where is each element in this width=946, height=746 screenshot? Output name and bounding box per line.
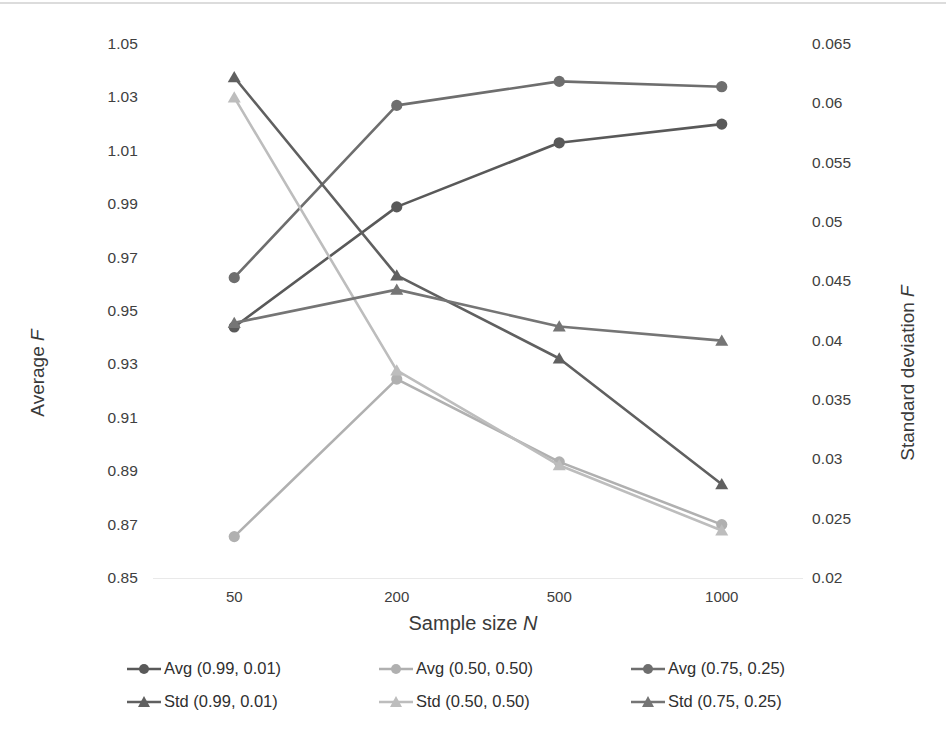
y-axis-left-tick-label: 0.89 [107,462,138,480]
y-axis-left-tick-label: 0.97 [107,249,138,267]
legend-item-avg_75_25[interactable]: Avg (0.75, 0.25) [630,659,882,678]
series-avg_75_25 [229,76,728,283]
x-axis-tick-label: 1000 [705,588,738,605]
y-axis-left-title-symbol: F [27,329,48,341]
data-point-std_50_50 [553,459,566,470]
data-point-std_99_01 [390,269,403,280]
legend-item-avg_99_01[interactable]: Avg (0.99, 0.01) [126,659,378,678]
y-axis-right-title-text: Standard deviation [897,302,918,460]
legend-item-std_99_01[interactable]: Std (0.99, 0.01) [126,692,378,711]
y-axis-right-tick-label: 0.05 [812,213,843,231]
legend-item-std_75_25[interactable]: Std (0.75, 0.25) [630,692,882,711]
legend-label: Avg (0.75, 0.25) [668,659,785,678]
series-line-std_50_50 [234,97,722,530]
legend: Avg (0.99, 0.01)Avg (0.50, 0.50)Avg (0.7… [0,652,946,718]
y-axis-left-tick-label: 0.95 [107,302,138,320]
legend-label: Avg (0.99, 0.01) [164,659,281,678]
x-axis-title: Sample size N [0,612,946,635]
x-axis-tick-label: 50 [226,588,243,605]
y-axis-left-tick-label: 0.91 [107,409,138,427]
legend-row: Std (0.99, 0.01)Std (0.50, 0.50)Std (0.7… [0,685,946,718]
circle-marker-icon [630,660,666,678]
y-axis-left-tick-label: 0.85 [107,569,138,587]
axis-baseline [153,578,803,579]
legend-row: Avg (0.99, 0.01)Avg (0.50, 0.50)Avg (0.7… [0,652,946,685]
chart-figure: 1.051.031.010.990.970.950.930.910.890.87… [0,0,946,746]
triangle-marker-icon [378,693,414,711]
y-axis-left-tick-label: 0.93 [107,355,138,373]
data-point-std_50_50 [715,524,728,535]
x-axis-tick-label: 500 [547,588,572,605]
circle-marker-icon [126,660,162,678]
data-point-avg_99_01 [229,321,240,332]
y-axis-right-tick-label: 0.03 [812,450,843,468]
data-point-avg_99_01 [391,201,402,212]
data-point-std_50_50 [390,364,403,375]
legend-item-avg_50_50[interactable]: Avg (0.50, 0.50) [378,659,630,678]
data-point-avg_50_50 [229,531,240,542]
y-axis-right-tick-label: 0.06 [812,94,843,112]
y-axis-left-tick-label: 1.05 [107,35,138,53]
data-point-std_99_01 [228,71,241,82]
series-avg_99_01 [229,119,728,333]
y-axis-left-tick-label: 0.99 [107,195,138,213]
legend-label: Std (0.75, 0.25) [668,692,782,711]
top-rule [0,2,946,4]
series-line-avg_99_01 [234,124,722,327]
series-line-avg_50_50 [234,379,722,537]
data-point-std_75_25 [228,317,241,328]
y-axis-right-title: Standard deviation F [897,258,919,488]
y-axis-right-tick-label: 0.065 [812,35,851,53]
y-axis-right-tick-label: 0.04 [812,332,843,350]
data-point-avg_50_50 [716,519,727,530]
data-point-std_99_01 [715,478,728,489]
legend-label: Std (0.50, 0.50) [416,692,530,711]
series-std_75_25 [228,283,729,345]
triangle-marker-icon [630,693,666,711]
data-point-std_75_25 [553,320,566,331]
series-line-std_75_25 [234,290,722,341]
x-axis-tick-label: 200 [384,588,409,605]
data-point-avg_99_01 [554,137,565,148]
data-point-avg_99_01 [716,119,727,130]
data-point-avg_75_25 [391,100,402,111]
series-avg_50_50 [229,373,728,542]
data-point-std_50_50 [228,91,241,102]
series-std_50_50 [228,91,729,535]
y-axis-right-tick-label: 0.025 [812,510,851,528]
series-line-std_99_01 [234,77,722,484]
series-std_99_01 [228,71,729,489]
data-point-avg_50_50 [554,456,565,467]
y-axis-left-tick-label: 1.01 [107,142,138,160]
y-axis-right-tick-label: 0.035 [812,391,851,409]
y-axis-left-tick-label: 1.03 [107,88,138,106]
y-axis-left-title: Average F [27,293,49,453]
y-axis-right-tick-label: 0.055 [812,154,851,172]
circle-marker-icon [378,660,414,678]
data-point-avg_50_50 [391,373,402,384]
y-axis-left-tick-label: 0.87 [107,516,138,534]
data-point-std_99_01 [553,352,566,363]
y-axis-left-title-text: Average [27,346,48,416]
data-point-std_75_25 [715,334,728,345]
x-axis-title-symbol: N [523,612,537,634]
y-axis-right-title-symbol: F [897,285,918,297]
data-point-avg_75_25 [229,272,240,283]
legend-label: Avg (0.50, 0.50) [416,659,533,678]
triangle-marker-icon [126,693,162,711]
series-line-avg_75_25 [234,81,722,277]
data-point-avg_75_25 [716,81,727,92]
data-point-std_75_25 [390,283,403,294]
legend-item-std_50_50[interactable]: Std (0.50, 0.50) [378,692,630,711]
data-point-avg_75_25 [554,76,565,87]
y-axis-right-tick-label: 0.045 [812,272,851,290]
y-axis-right-tick-label: 0.02 [812,569,843,587]
legend-label: Std (0.99, 0.01) [164,692,278,711]
x-axis-title-text: Sample size [409,612,518,634]
